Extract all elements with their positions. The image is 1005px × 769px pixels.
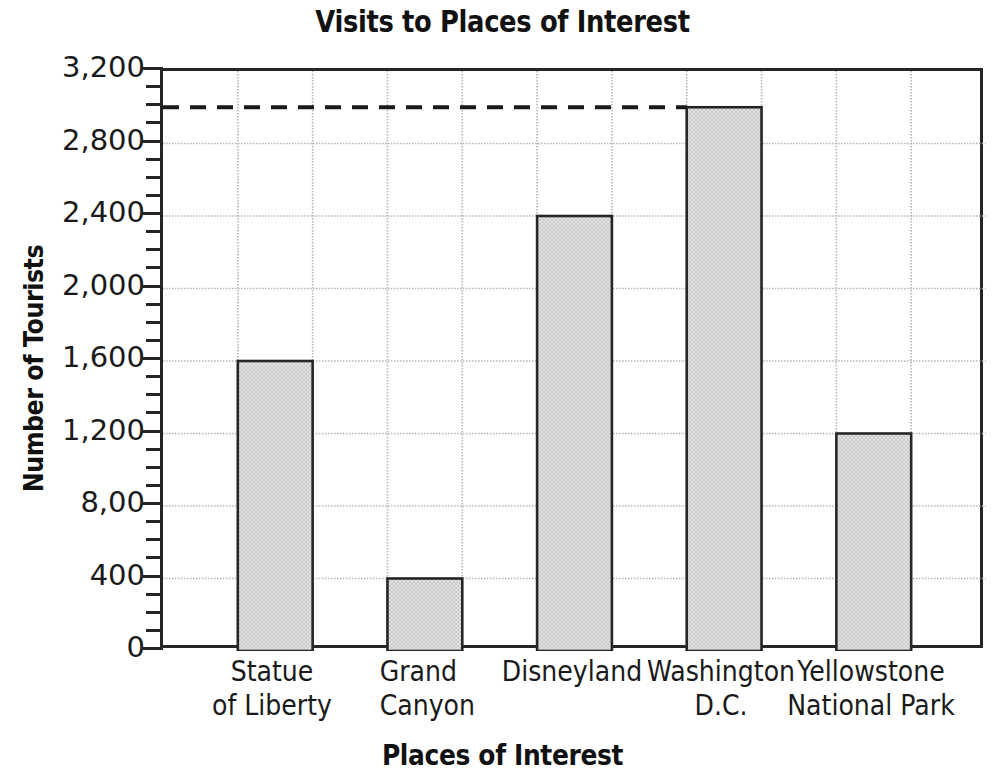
x-axis-tick-label: Statueof Liberty	[212, 655, 332, 723]
x-axis-tick-label: WashingtonD.C.	[647, 655, 795, 723]
bar: Washington D.C.: 3000	[687, 107, 762, 651]
x-axis-tick-label: YellowstoneNational Park	[787, 655, 954, 723]
bar: Statue of Liberty: 1600	[238, 361, 313, 651]
bars-group: Statue of Liberty: 1600Grand Canyon: 400…	[238, 107, 911, 651]
x-axis-tick-label-line1: Grand	[379, 655, 474, 689]
x-axis-tick-label-line1: Yellowstone	[787, 655, 954, 689]
x-axis-tick-label-line1: Statue	[212, 655, 332, 689]
x-axis-tick-label-line2: National Park	[787, 689, 954, 723]
x-axis-title: Places of Interest	[70, 738, 934, 769]
plot-area: Statue of Liberty: 1600Grand Canyon: 400…	[160, 68, 983, 648]
x-axis-tick-label: GrandCanyon	[379, 655, 474, 723]
x-axis-tick-label-line2: Canyon	[379, 689, 474, 723]
bar: Yellowstone National Park: 1200	[836, 434, 911, 652]
x-axis-tick-label: Disneyland	[501, 655, 641, 689]
x-axis-tick-label-line2: D.C.	[647, 689, 795, 723]
y-axis-tick-marks	[0, 0, 170, 751]
plot-svg: Statue of Liberty: 1600Grand Canyon: 400…	[163, 71, 986, 651]
x-axis-tick-label-line2: of Liberty	[212, 689, 332, 723]
bar: Disneyland: 2400	[537, 216, 612, 651]
bar: Grand Canyon: 400	[387, 579, 462, 652]
chart-title: Visits to Places of Interest	[70, 4, 934, 39]
x-axis-tick-label-line1: Washington	[647, 655, 795, 689]
x-axis-tick-label-line1: Disneyland	[501, 655, 641, 689]
x-axis-tick-labels: Statueof LibertyGrandCanyonDisneylandWas…	[160, 655, 1005, 751]
